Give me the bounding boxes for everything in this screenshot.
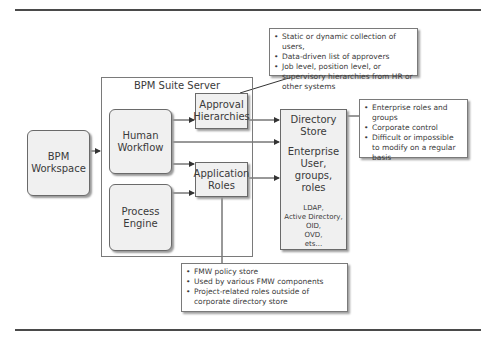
directory-store-box: Directory Store Enterprise User, groups,… [280,109,347,250]
workspace-label-2: Workspace [31,163,86,175]
workspace-label-1: BPM [48,151,70,163]
approval-label-2: Hierarchies [193,111,250,123]
callout-bullet: Job level, position level, or supervisor… [274,62,413,92]
callout-bullet: Project-related roles outside of corpora… [186,287,343,307]
approval-label-1: Approval [199,99,243,111]
ds-example: LDAP, [284,204,342,213]
process-engine-box: Process Engine [109,184,172,251]
workflow-label-2: Workflow [118,142,164,154]
callout-bullet: FMW policy store [186,267,343,277]
callout-bullet: Used by various FMW components [186,277,343,287]
workflow-label-1: Human [122,130,158,142]
approles-label-2: Roles [208,180,235,192]
ds-title-2: Store [300,126,326,138]
ds-title-1: Directory [290,114,336,126]
ds-example: ets... [284,240,342,249]
directory-callout: Enterprise roles and groups Corporate co… [359,99,468,158]
bpm-workspace-box: BPM Workspace [27,130,90,196]
application-roles-callout: FMW policy store Used by various FMW com… [181,263,348,312]
callout-bullet: Difficult or impossible to modify on a r… [364,133,463,163]
approval-hierarchies-box: Approval Hierarchies [195,93,248,129]
ds-main-2: User, groups, [281,158,346,182]
ds-main-1: Enterprise [288,146,339,158]
ds-example: Active Directory, [284,213,342,222]
callout-bullet: Corporate control [364,123,463,133]
ds-main-3: roles [301,182,325,194]
human-workflow-box: Human Workflow [109,109,172,174]
callout-bullet: Static or dynamic collection of users, [274,32,413,52]
approles-label-1: Application [194,168,250,180]
engine-label-1: Process [122,206,160,218]
server-title: BPM Suite Server [102,80,252,91]
ds-example: OID, [284,222,342,231]
approval-callout: Static or dynamic collection of users, D… [269,28,418,76]
engine-label-2: Engine [123,218,157,230]
ds-examples: LDAP, Active Directory, OID, OVD, ets... [284,204,342,249]
application-roles-box: Application Roles [195,162,248,197]
ds-example: OVD, [284,231,342,240]
callout-bullet: Data-driven list of approvers [274,52,413,62]
callout-bullet: Enterprise roles and groups [364,103,463,123]
